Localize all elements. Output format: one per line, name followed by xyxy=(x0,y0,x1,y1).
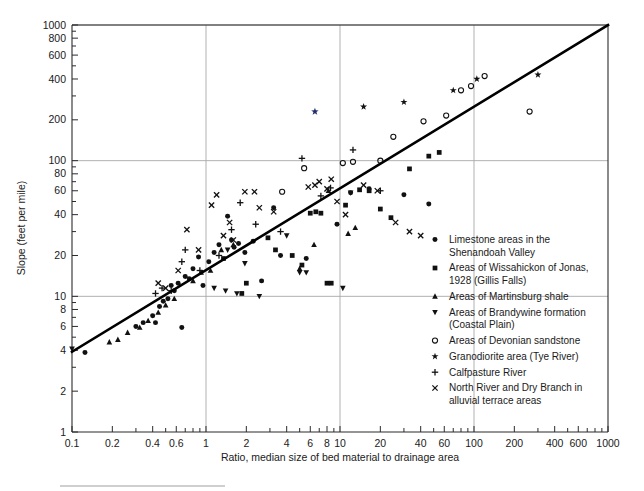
marker-down-triangle xyxy=(225,248,231,253)
marker-open-circle xyxy=(458,88,463,93)
series-6 xyxy=(152,147,383,297)
legend: Limestone areas in theShenandoah ValleyA… xyxy=(432,234,589,406)
marker-filled-square xyxy=(367,188,372,193)
marker-filled-circle xyxy=(153,320,158,325)
marker-cross xyxy=(432,385,437,390)
marker-filled-square xyxy=(433,266,438,271)
legend-item-5[interactable]: Granodiorite area (Tye River) xyxy=(432,351,579,362)
y-tick-label: 60 xyxy=(54,184,66,196)
y-tick-label: 100 xyxy=(48,154,66,166)
x-tick-label: 400 xyxy=(546,437,564,449)
marker-filled-circle xyxy=(165,296,170,301)
marker-plus xyxy=(277,228,283,234)
legend-item-7[interactable]: North River and Dry Branch inalluvial te… xyxy=(432,382,582,406)
marker-up-triangle xyxy=(311,242,317,247)
marker-up-triangle xyxy=(125,330,131,335)
marker-cross xyxy=(361,183,366,188)
marker-filled-square xyxy=(389,215,394,220)
marker-plus xyxy=(228,226,234,232)
y-tick-label: 6 xyxy=(60,320,66,332)
marker-filled-circle xyxy=(82,350,87,355)
marker-up-triangle xyxy=(155,309,161,314)
legend-item-6[interactable]: Calfpasture River xyxy=(432,367,527,378)
x-tick-label: 0.6 xyxy=(169,437,184,449)
marker-filled-circle xyxy=(426,201,431,206)
marker-cross xyxy=(393,220,398,225)
marker-filled-circle xyxy=(133,324,138,329)
chart-container: 0.10.20.40.61246810204060100200400600100… xyxy=(0,0,644,491)
x-tick-label: 200 xyxy=(506,437,524,449)
marker-open-circle xyxy=(280,189,285,194)
marker-down-triangle xyxy=(223,288,229,293)
marker-plus xyxy=(253,221,259,227)
marker-filled-circle xyxy=(179,325,184,330)
marker-filled-circle xyxy=(141,320,146,325)
marker-up-triangle xyxy=(115,337,121,342)
marker-filled-square xyxy=(325,281,330,286)
legend-item-1[interactable]: Areas of Wissahickon of Jonas,1928 (Gill… xyxy=(433,262,589,286)
marker-star xyxy=(534,71,541,78)
marker-open-circle xyxy=(302,166,307,171)
marker-open-circle xyxy=(350,159,355,164)
marker-up-triangle xyxy=(145,318,151,323)
y-tick-label: 1000 xyxy=(43,19,67,31)
marker-filled-square xyxy=(407,167,412,172)
marker-down-triangle xyxy=(211,286,217,291)
marker-filled-circle xyxy=(433,237,438,242)
marker-open-circle xyxy=(340,161,345,166)
marker-filled-circle xyxy=(278,253,283,258)
marker-cross xyxy=(156,281,161,286)
marker-cross xyxy=(176,268,181,273)
legend-label: Areas of Brandywine formation xyxy=(449,307,586,318)
marker-cross xyxy=(407,229,412,234)
x-tick-label: 1000 xyxy=(596,437,620,449)
legend-item-3[interactable]: Areas of Brandywine formation(Coastal Pl… xyxy=(432,307,586,331)
marker-filled-square xyxy=(437,150,442,155)
marker-filled-circle xyxy=(191,266,196,271)
marker-filled-circle xyxy=(196,254,201,259)
marker-cross xyxy=(343,212,348,217)
marker-down-triangle xyxy=(242,261,248,266)
marker-down-triangle xyxy=(297,270,303,275)
y-tick-label: 200 xyxy=(48,113,66,125)
marker-cross xyxy=(306,184,311,189)
legend-label: Limestone areas in the xyxy=(449,234,551,245)
marker-star xyxy=(311,108,318,115)
marker-filled-square xyxy=(300,263,305,268)
y-tick-label: 8 xyxy=(60,303,66,315)
y-tick-label: 1 xyxy=(60,426,66,438)
marker-filled-circle xyxy=(150,313,155,318)
marker-down-triangle xyxy=(340,286,346,291)
legend-item-0[interactable]: Limestone areas in theShenandoah Valley xyxy=(433,234,551,258)
y-tick-label: 40 xyxy=(54,208,66,220)
y-tick-label: 80 xyxy=(54,167,66,179)
marker-filled-square xyxy=(313,209,318,214)
marker-filled-square xyxy=(266,235,271,240)
marker-cross xyxy=(242,189,247,194)
series-7 xyxy=(156,177,424,291)
x-tick-label: 60 xyxy=(438,437,450,449)
marker-down-triangle xyxy=(432,310,438,315)
marker-star xyxy=(450,87,457,94)
marker-cross xyxy=(334,199,339,204)
x-tick-label: 0.1 xyxy=(65,437,80,449)
legend-item-4[interactable]: Areas of Devonian sandstone xyxy=(432,335,580,346)
marker-plus xyxy=(237,199,243,205)
series-1 xyxy=(221,150,441,296)
marker-cross xyxy=(184,227,189,232)
legend-label: Shenandoah Valley xyxy=(449,247,535,258)
x-tick-label: 600 xyxy=(570,437,588,449)
legend-item-2[interactable]: Areas of Martinsburg shale xyxy=(432,291,569,302)
marker-filled-circle xyxy=(157,304,162,309)
marker-cross xyxy=(214,192,219,197)
marker-filled-square xyxy=(239,291,244,296)
marker-cross xyxy=(418,233,423,238)
marker-star xyxy=(432,353,439,360)
marker-filled-circle xyxy=(401,192,406,197)
x-tick-label: 4 xyxy=(284,437,290,449)
marker-star xyxy=(360,103,367,110)
marker-star xyxy=(400,98,407,105)
legend-label: alluvial terrace areas xyxy=(449,395,541,406)
marker-up-triangle xyxy=(352,225,358,230)
marker-plus xyxy=(182,247,188,253)
